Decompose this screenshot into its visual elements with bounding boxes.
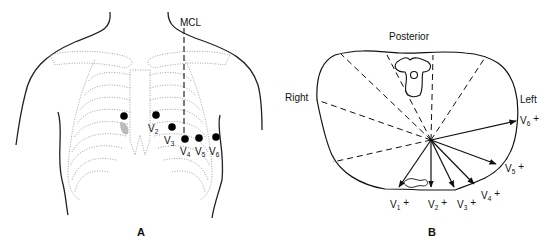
vector-label-v3: V3+ xyxy=(457,197,476,211)
right-ribs xyxy=(150,72,210,192)
vector-v6 xyxy=(431,121,516,140)
left-shoulder-outline xyxy=(16,12,110,145)
panel-a-chest: MCL V2 V3 V4 V5 V6 A xyxy=(16,12,262,238)
sternum xyxy=(130,70,150,155)
electrode-label-v5: V5 xyxy=(195,146,206,158)
right-flank-outline xyxy=(212,115,223,218)
electrode-v6 xyxy=(212,133,220,141)
vector-label-v4: V4+ xyxy=(481,188,500,202)
left-ribs xyxy=(70,72,130,192)
left-label: Left xyxy=(520,94,537,105)
sternum-icon xyxy=(404,179,428,188)
electrode-v2 xyxy=(152,111,160,119)
vertebra-icon xyxy=(395,58,430,97)
left-flank-outline xyxy=(58,112,68,215)
vector-label-v1: V1+ xyxy=(390,197,409,211)
electrode-label-v6: V6 xyxy=(209,146,220,158)
positive-vectors xyxy=(399,121,516,187)
electrode-v5 xyxy=(195,134,203,142)
electrode-v4 xyxy=(181,135,189,143)
electrode-label-v2: V2 xyxy=(148,123,159,135)
vector-v4 xyxy=(431,140,474,184)
panel-b-label: B xyxy=(428,226,436,238)
panel-b-cross-section: Posterior Right Left V1+ xyxy=(285,31,539,238)
rib-cage-outline xyxy=(68,60,212,200)
mcl-label: MCL xyxy=(180,17,202,28)
right-clavicle xyxy=(148,51,230,68)
ecg-precordial-diagram: MCL V2 V3 V4 V5 V6 A Posterior Right Lef… xyxy=(0,0,555,249)
right-shoulder-outline xyxy=(168,12,262,130)
electrode-label-v4: V4 xyxy=(180,146,191,158)
electrode-v1 xyxy=(120,112,128,120)
vector-label-v6: V6+ xyxy=(520,113,539,127)
electrode-label-v3: V3 xyxy=(164,135,175,147)
left-clavicle xyxy=(50,51,132,68)
electrode-v3 xyxy=(168,123,176,131)
vector-label-v2: V2+ xyxy=(428,197,447,211)
right-label: Right xyxy=(285,92,309,103)
panel-a-label: A xyxy=(137,226,145,238)
vector-label-v5: V5+ xyxy=(505,161,524,175)
posterior-label: Posterior xyxy=(389,31,430,42)
